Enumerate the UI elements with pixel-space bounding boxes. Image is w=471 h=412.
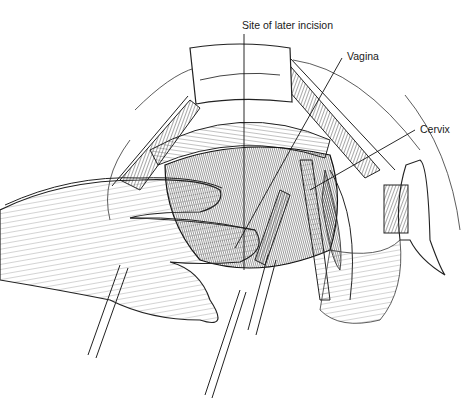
surgical-illustration [0, 0, 471, 412]
label-site-of-later-incision: Site of later incision [242, 20, 333, 31]
anatomy-drawing [0, 0, 471, 412]
label-vagina: Vagina [347, 51, 379, 62]
upper-retractor [190, 44, 292, 104]
lower-right-tissue [320, 240, 401, 323]
surgeon-hand [0, 178, 259, 323]
label-cervix: Cervix [420, 124, 450, 135]
